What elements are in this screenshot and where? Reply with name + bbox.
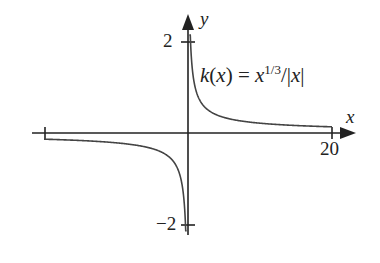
y-tick-label-2: 2	[163, 30, 173, 52]
fn-base: x	[255, 63, 264, 87]
y-axis-arrow-icon	[182, 14, 194, 30]
fn-arg: x	[216, 63, 225, 87]
y-axis-label: y	[200, 8, 208, 30]
plot-svg	[0, 0, 380, 263]
fn-paren-close: )	[226, 63, 233, 87]
x-tick-label-20: 20	[320, 138, 339, 160]
fn-abs-arg: x	[291, 63, 300, 87]
x-axis-label: x	[346, 106, 354, 128]
fn-exponent: 1/3	[264, 62, 281, 77]
y-tick-label-neg2: −2	[156, 213, 176, 235]
fn-equals: =	[233, 63, 255, 87]
x-axis-arrow-icon	[340, 127, 356, 139]
fn-divide: /|	[281, 63, 291, 87]
function-label: k(x) = x1/3/|x|	[200, 62, 305, 88]
fn-abs-bar: |	[300, 63, 304, 87]
chart-root: y x 2 −2 20 k(x) = x1/3/|x|	[0, 0, 380, 263]
fn-name: k	[200, 63, 209, 87]
